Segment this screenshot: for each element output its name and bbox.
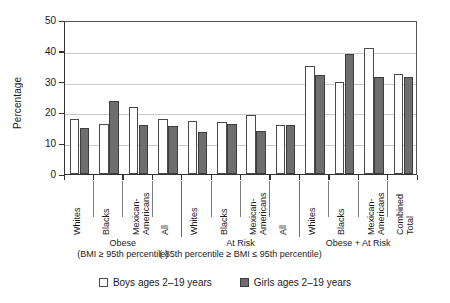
y-axis-title: Percentage <box>10 55 24 150</box>
bar-boys <box>158 119 168 174</box>
bar-girls <box>109 101 119 174</box>
x-label-separator <box>93 181 94 217</box>
x-tick <box>93 175 94 180</box>
legend-item-girls: Girls ages 2–19 years <box>240 277 351 288</box>
x-label-separator <box>240 181 241 217</box>
legend-swatch-boys <box>99 278 108 287</box>
bar-girls <box>256 131 266 174</box>
x-label-separator <box>387 181 388 217</box>
legend-item-boys: Boys ages 2–19 years <box>99 277 212 288</box>
x-label-separator <box>269 181 270 217</box>
group-label-title: Obese + At Risk <box>268 238 448 249</box>
y-tick-label: 20 <box>26 108 56 118</box>
x-tick <box>152 175 153 180</box>
x-tick-label: Mexican- Americans <box>132 181 151 235</box>
bar-boys <box>188 121 198 174</box>
x-tick <box>358 175 359 180</box>
bar-boys <box>129 107 139 174</box>
bar-girls <box>168 126 178 174</box>
x-tick-label: Combined Total <box>396 181 415 235</box>
x-tick-label: Whites <box>190 181 200 235</box>
bar-girls <box>198 132 208 174</box>
y-tick-label: 30 <box>26 78 56 88</box>
legend-label-boys: Boys ages 2–19 years <box>113 277 212 288</box>
bar-boys <box>394 74 404 174</box>
x-label-separator <box>328 181 329 217</box>
x-tick <box>328 175 329 180</box>
y-tick-label: 0 <box>26 170 56 180</box>
legend: Boys ages 2–19 years Girls ages 2–19 yea… <box>0 277 450 288</box>
x-label-separator <box>122 181 123 217</box>
bar-boys <box>335 82 345 174</box>
x-tick-label: Blacks <box>220 181 230 235</box>
bar-girls <box>315 75 325 174</box>
bar-boys <box>70 119 80 174</box>
y-tick-label: 10 <box>26 139 56 149</box>
group-separator <box>181 181 182 237</box>
x-tick <box>299 175 300 180</box>
bar-boys <box>99 124 109 174</box>
plot-area <box>64 21 417 175</box>
bar-girls <box>374 77 384 174</box>
x-tick <box>269 175 270 180</box>
bar-girls <box>345 54 355 174</box>
legend-swatch-girls <box>240 278 249 287</box>
group-separator <box>299 181 300 237</box>
group-label: Obese + At Risk <box>268 238 448 249</box>
x-tick <box>122 175 123 180</box>
x-label-separator <box>211 181 212 217</box>
bar-boys <box>246 115 256 174</box>
x-label-separator <box>152 181 153 217</box>
x-label-separator <box>358 181 359 217</box>
y-tick-label: 40 <box>26 47 56 57</box>
x-tick-label: Whites <box>308 181 318 235</box>
x-tick <box>387 175 388 180</box>
y-tick-label: 50 <box>26 16 56 26</box>
bar-boys <box>364 48 374 174</box>
bar-girls <box>80 128 90 174</box>
group-label-subtitle: ( 85th percentile ≥ BMI ≤ 95th percentil… <box>151 249 331 260</box>
x-tick <box>240 175 241 180</box>
x-tick-label: Whites <box>73 181 83 235</box>
x-tick-label: Mexican- Americans <box>249 181 268 235</box>
bar-girls <box>404 77 414 174</box>
bar-boys <box>217 122 227 174</box>
x-tick-label: Blacks <box>102 181 112 235</box>
bar-boys <box>305 66 315 174</box>
x-tick <box>211 175 212 180</box>
x-tick-label: All <box>279 181 289 235</box>
bar-boys <box>276 125 286 174</box>
bars-layer <box>65 22 416 174</box>
legend-label-girls: Girls ages 2–19 years <box>254 277 351 288</box>
bar-girls <box>286 125 296 174</box>
bar-girls <box>227 124 237 174</box>
x-tick <box>64 175 65 180</box>
x-tick <box>417 175 418 180</box>
bar-girls <box>139 125 149 174</box>
x-tick <box>181 175 182 180</box>
x-tick-label: Mexican- Americans <box>367 181 386 235</box>
x-tick-label: Blacks <box>337 181 347 235</box>
bar-chart: Percentage 01020304050 WhitesBlacksMexic… <box>0 0 450 303</box>
x-tick-label: All <box>161 181 171 235</box>
